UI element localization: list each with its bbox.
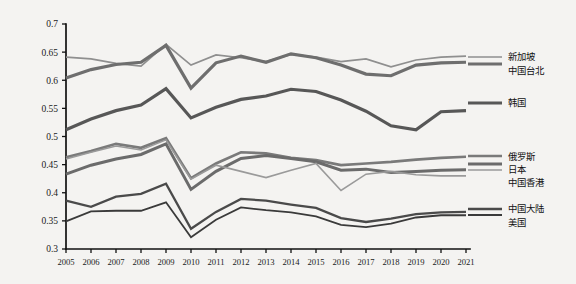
x-tick-label: 2012 bbox=[232, 257, 249, 267]
x-tick-label: 2008 bbox=[132, 257, 149, 267]
series-line bbox=[66, 140, 466, 191]
legend-label: 新加坡 bbox=[508, 51, 536, 62]
y-tick-label: 0.3 bbox=[46, 244, 58, 254]
series-line bbox=[66, 202, 466, 237]
x-tick-label: 2011 bbox=[208, 257, 225, 267]
y-tick-label: 0.65 bbox=[41, 48, 58, 58]
x-tick-label: 2005 bbox=[57, 257, 74, 267]
x-tick-label: 2020 bbox=[432, 257, 449, 267]
legend-label: 日本 bbox=[508, 164, 527, 175]
line-chart: 0.70.650.60.550.50.450.40.350.3 20052006… bbox=[0, 0, 576, 284]
chart-legend: 新加坡中国台北韩国俄罗斯日本中国香港中国大陆美国 bbox=[468, 51, 545, 228]
x-tick-label: 2018 bbox=[382, 257, 399, 267]
y-tick-label: 0.6 bbox=[46, 76, 58, 86]
chart-canvas: 0.70.650.60.550.50.450.40.350.3 20052006… bbox=[0, 0, 576, 284]
x-tick-label: 2010 bbox=[182, 257, 199, 267]
series-line bbox=[66, 144, 466, 190]
x-tick-label: 2021 bbox=[457, 257, 474, 267]
series-lines bbox=[66, 44, 466, 237]
series-line bbox=[66, 45, 466, 88]
x-tick-label: 2019 bbox=[407, 257, 424, 267]
legend-label: 俄罗斯 bbox=[508, 151, 535, 162]
series-line bbox=[66, 184, 466, 229]
y-tick-label: 0.45 bbox=[41, 160, 58, 170]
y-tick-label: 0.4 bbox=[46, 188, 58, 198]
x-tick-label: 2013 bbox=[257, 257, 274, 267]
x-tick-label: 2009 bbox=[157, 257, 174, 267]
legend-label: 韩国 bbox=[508, 97, 526, 108]
legend-label: 美国 bbox=[508, 217, 526, 228]
y-tick-label: 0.7 bbox=[46, 19, 58, 29]
y-axis: 0.70.650.60.550.50.450.40.350.3 bbox=[41, 19, 66, 254]
y-tick-label: 0.35 bbox=[41, 216, 58, 226]
series-line bbox=[66, 89, 466, 130]
legend-label: 中国香港 bbox=[508, 177, 545, 188]
x-tick-label: 2014 bbox=[282, 257, 300, 267]
y-tick-label: 0.55 bbox=[41, 104, 58, 114]
x-tick-label: 2015 bbox=[307, 257, 324, 267]
legend-label: 中国大陆 bbox=[508, 203, 544, 214]
x-axis: 2005200620072008200920102011201220132014… bbox=[57, 249, 474, 267]
x-tick-label: 2016 bbox=[332, 257, 350, 267]
y-tick-label: 0.5 bbox=[46, 132, 58, 142]
x-tick-label: 2007 bbox=[107, 257, 125, 267]
legend-label: 中国台北 bbox=[508, 65, 545, 76]
x-tick-label: 2017 bbox=[357, 257, 375, 267]
x-tick-label: 2006 bbox=[82, 257, 100, 267]
